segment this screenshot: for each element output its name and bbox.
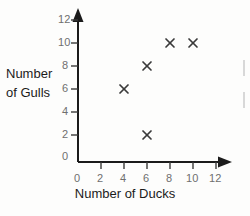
data-point: [143, 62, 151, 70]
x-tick-label-4: 4: [120, 172, 126, 184]
x-tick-label-6: 6: [143, 172, 149, 184]
y-tick-label-12: 12: [58, 13, 71, 25]
y-axis-label-line-2: of Gulls: [6, 85, 50, 100]
y-tick-label-6: 6: [62, 82, 68, 94]
data-point-markers: [120, 39, 197, 139]
x-tick-label-0: 0: [74, 172, 80, 184]
data-point: [166, 39, 174, 47]
y-tick-label-10: 10: [58, 36, 71, 48]
y-tick-label-0: 0: [62, 150, 68, 162]
y-axis-ticks: [71, 20, 78, 135]
data-point: [143, 131, 151, 139]
x-tick-label-2: 2: [97, 172, 103, 184]
x-axis-arrow-icon: [218, 157, 232, 168]
x-axis-label: Number of Ducks: [0, 186, 250, 201]
x-tick-label-12: 12: [209, 172, 222, 184]
x-tick-label-10: 10: [186, 172, 199, 184]
scatter-plot-figure: 12 10 8 6 4 2 0 0 2 4 6 8 10 12 Number o…: [0, 0, 250, 216]
data-point: [189, 39, 197, 47]
y-tick-label-4: 4: [62, 105, 68, 117]
y-axis-label-line-1: Number: [6, 66, 52, 81]
x-tick-label-8: 8: [166, 172, 172, 184]
data-point: [120, 85, 128, 93]
y-tick-label-2: 2: [62, 128, 68, 140]
x-axis-ticks: [101, 162, 216, 169]
scan-artifact: [243, 92, 245, 108]
y-tick-label-8: 8: [62, 59, 68, 71]
scan-artifact: [243, 60, 245, 76]
